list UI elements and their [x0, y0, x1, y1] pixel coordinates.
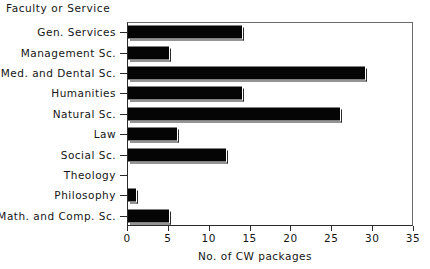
x-axis-title-text: No. of CW packages — [198, 250, 312, 262]
bar-row: Gen. Services — [0, 22, 430, 42]
bar-category-label: Math. and Comp. Sc. — [0, 210, 116, 222]
bar[interactable] — [128, 148, 226, 161]
x-axis-tick-label: 30 — [365, 232, 379, 244]
bar-category-label: Social Sc. — [61, 149, 116, 161]
bar[interactable] — [128, 87, 242, 100]
y-axis-tick — [120, 175, 127, 176]
x-axis-tick — [331, 226, 332, 231]
x-axis-tick-label: 10 — [202, 232, 216, 244]
x-axis-tick-label: 35 — [406, 232, 420, 244]
bar[interactable] — [128, 128, 177, 141]
y-axis-tick — [120, 93, 127, 94]
bar-row: Theology — [0, 165, 430, 185]
bar[interactable] — [128, 209, 169, 222]
bar-chart: Faculty or Service Gen. ServicesManageme… — [0, 0, 430, 269]
x-axis-tick-label: 15 — [242, 232, 256, 244]
bar-wrapper — [128, 66, 365, 79]
x-axis-tick-label: 0 — [123, 232, 130, 244]
bar-wrapper — [128, 46, 169, 59]
bar-row: Social Sc. — [0, 144, 430, 164]
y-axis-tick — [120, 155, 127, 156]
x-axis-tick — [209, 226, 210, 231]
bar[interactable] — [128, 66, 365, 79]
bar-wrapper — [128, 148, 226, 161]
bar-category-label: Gen. Services — [37, 26, 116, 38]
y-axis-tick — [120, 114, 127, 115]
x-axis-tick — [372, 226, 373, 231]
bar-wrapper — [128, 189, 136, 202]
y-axis-tick — [120, 53, 127, 54]
bar-row: Humanities — [0, 83, 430, 103]
bar-category-label: Philosophy — [54, 189, 116, 201]
bar-row: Law — [0, 124, 430, 144]
bar[interactable] — [128, 26, 242, 39]
bar-row: Natural Sc. — [0, 104, 430, 124]
bar-wrapper — [128, 26, 242, 39]
bar-wrapper — [128, 209, 169, 222]
bar-row: Philosophy — [0, 185, 430, 205]
y-axis-tick — [120, 195, 127, 196]
bar-row: Management Sc. — [0, 42, 430, 62]
bar-wrapper — [128, 128, 177, 141]
bar-category-label: Law — [94, 128, 116, 140]
x-axis-tick — [127, 226, 128, 231]
bar-category-label: Management Sc. — [21, 47, 116, 59]
bar-wrapper — [128, 87, 242, 100]
bar-rows: Gen. ServicesManagement Sc.Med. and Dent… — [0, 22, 430, 226]
y-axis-tick — [120, 73, 127, 74]
x-axis-tick — [250, 226, 251, 231]
bar[interactable] — [128, 46, 169, 59]
bar-category-label: Humanities — [51, 87, 116, 99]
x-axis-tick-label: 5 — [164, 232, 171, 244]
y-axis-tick — [120, 32, 127, 33]
bar[interactable] — [128, 189, 136, 202]
x-axis-tick — [290, 226, 291, 231]
x-axis-tick-label: 25 — [324, 232, 338, 244]
bar-category-label: Theology — [64, 169, 116, 181]
x-axis-title: No. of CW packages — [0, 250, 430, 262]
bar-wrapper — [128, 107, 340, 120]
x-axis-tick — [413, 226, 414, 231]
x-axis-tick — [168, 226, 169, 231]
bar-category-label: Natural Sc. — [53, 108, 116, 120]
y-axis-tick — [120, 134, 127, 135]
bar-row: Med. and Dental Sc. — [0, 63, 430, 83]
y-axis-tick — [120, 216, 127, 217]
y-axis-title: Faculty or Service — [6, 2, 110, 14]
bar[interactable] — [128, 107, 340, 120]
x-axis-tick-label: 20 — [283, 232, 297, 244]
bar-row: Math. and Comp. Sc. — [0, 206, 430, 226]
bar-category-label: Med. and Dental Sc. — [1, 67, 116, 79]
